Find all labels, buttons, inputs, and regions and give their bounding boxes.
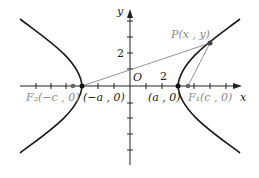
focus-left-label: F₂(−c , 0): [26, 92, 80, 103]
vertex-left-point: [80, 84, 85, 89]
hyperbola-diagram: y x O 2 2 P(x , y) F₂(−c , 0) (−a , 0) (…: [0, 0, 259, 178]
point-p: [208, 41, 213, 46]
vertex-left-label: (−a , 0): [83, 92, 125, 103]
hyperbola-graph: [0, 0, 259, 178]
focal-line-left: [82, 43, 210, 86]
focus-right-point: [186, 84, 191, 89]
y-tick-label: 2: [117, 48, 124, 59]
focus-right-label: F₁(c , 0): [188, 92, 232, 103]
focus-left-point: [71, 84, 76, 89]
point-p-label: P(x , y): [171, 29, 210, 40]
y-axis-label: y: [117, 6, 123, 17]
x-tick-label: 2: [160, 71, 167, 82]
x-axis-arrow-icon: [233, 83, 242, 89]
vertex-right-label: (a , 0): [148, 92, 181, 103]
x-axis-label: x: [240, 92, 246, 103]
vertex-right-point: [176, 84, 181, 89]
origin-label: O: [133, 72, 142, 83]
y-axis-arrow-icon: [127, 9, 133, 18]
